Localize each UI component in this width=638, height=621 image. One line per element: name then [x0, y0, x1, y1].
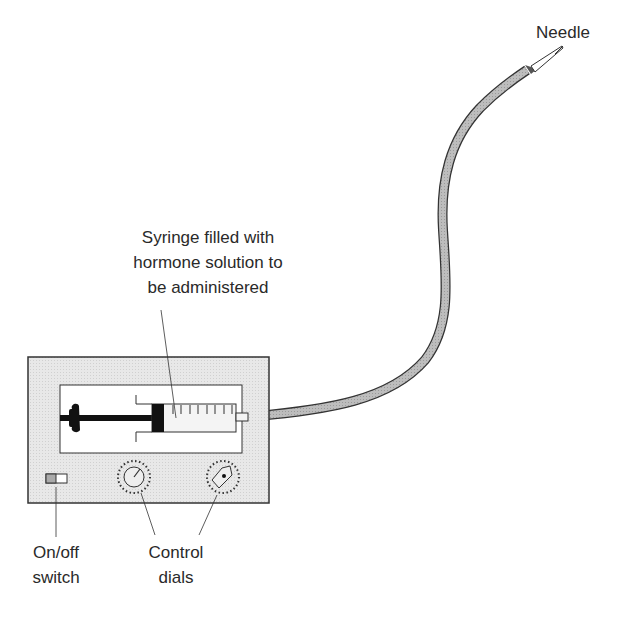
switch-label-line-2: switch [18, 565, 94, 590]
syringe-label-line-1: Syringe filled with [96, 225, 320, 250]
pump-diagram [0, 0, 638, 621]
syringe-label-line-2: hormone solution to [96, 250, 320, 275]
syringe-label: Syringe filled with hormone solution to … [96, 225, 320, 300]
dials-label-line-1: Control [128, 540, 224, 565]
dials-label-line-2: dials [128, 565, 224, 590]
switch-label: On/off switch [18, 540, 94, 590]
syringe-label-line-3: be administered [96, 275, 320, 300]
dials-label: Control dials [128, 540, 224, 590]
on-off-switch [46, 474, 67, 483]
switch-label-line-1: On/off [18, 540, 94, 565]
needle-label: Needle [528, 20, 598, 45]
needle [525, 46, 563, 74]
